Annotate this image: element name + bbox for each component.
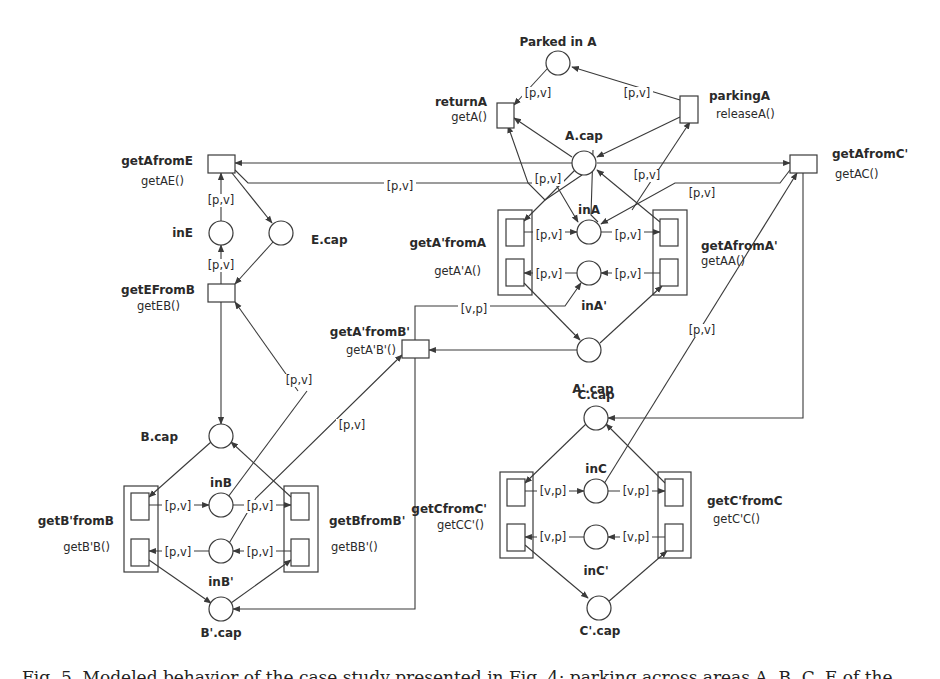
arc-inscription: [p,v] — [535, 172, 562, 186]
arc — [608, 551, 667, 602]
transition-box — [402, 340, 429, 358]
transition-parkingA: parkingAreleaseA() — [680, 89, 775, 123]
place-label: E.cap — [311, 233, 348, 247]
arc-label: [p,v] — [686, 323, 718, 337]
arc-inscription: [p,v] — [634, 168, 661, 182]
arc-inscription: [p,v] — [208, 193, 235, 207]
transition-group-getCpfromC: getC'fromCgetC'C() — [658, 472, 783, 558]
transition-getEFromB: getEFromBgetEB() — [121, 283, 235, 313]
place-Bpcap: B'.cap — [200, 597, 242, 640]
transition-method: getAC() — [835, 167, 879, 181]
transition-group-getBfromBp: getBfromB'getBB'() — [284, 486, 405, 572]
place-label: inB — [210, 476, 232, 490]
arc-inscription: [p,v] — [165, 545, 192, 559]
arc — [231, 560, 291, 603]
place-circle — [584, 525, 608, 549]
transition-box — [131, 539, 149, 566]
place-circle — [587, 596, 611, 620]
arc-label: [p,v] — [621, 86, 653, 100]
transition-box — [660, 219, 678, 246]
arc-label: [p,v] — [631, 168, 663, 182]
transition-group-getApfromA: getA'fromAgetA'A() — [409, 210, 532, 295]
arc — [525, 545, 588, 598]
transition-box — [506, 219, 524, 246]
arc-inscription: [v,p] — [461, 302, 488, 316]
arc-label: [p,v] — [533, 228, 565, 242]
arc-label: [p,v] — [522, 86, 554, 100]
place-circle — [209, 539, 233, 563]
arc — [235, 242, 273, 284]
transition-box — [790, 155, 817, 173]
transition-name: getAfromE — [121, 154, 193, 168]
place-label: inB' — [208, 575, 233, 589]
arc-inscription: [p,v] — [689, 186, 716, 200]
transition-method: getA'B'() — [346, 343, 396, 357]
transition-box — [497, 103, 514, 128]
transition-box — [131, 493, 149, 520]
arc-label: [v,p] — [620, 530, 652, 544]
arc — [525, 424, 586, 483]
transition-box — [507, 524, 525, 551]
transition-box — [506, 259, 524, 286]
place-Ecap: E.cap — [269, 221, 348, 247]
place-circle — [209, 221, 233, 245]
place-circle — [577, 261, 601, 285]
transition-returnA: returnAgetA() — [435, 95, 514, 128]
arc-inscription: [p,v] — [689, 323, 716, 337]
transition-method: getBB'() — [331, 540, 378, 554]
arc-label: [v,p] — [537, 484, 569, 498]
arc-labels-layer: [p,v][p,v][p,v][p,v][p,v][p,v][p,v][p,v]… — [162, 86, 718, 559]
arc-label: [p,v] — [162, 499, 194, 513]
transition-name: getAfromA' — [701, 239, 778, 253]
transition-method: getCC'() — [437, 518, 484, 532]
place-inAp: inA' — [577, 261, 607, 313]
transition-name: getBfromB' — [329, 514, 405, 528]
transition-method: getA() — [451, 110, 487, 124]
place-circle — [584, 479, 608, 503]
transition-getAfromE: getAfromEgetAE() — [121, 154, 235, 188]
place-label: inC' — [583, 564, 608, 578]
arc-inscription: [v,p] — [540, 484, 567, 498]
transition-group-getAfromAp: getAfromA'getAA() — [653, 210, 778, 295]
place-parkedA: Parked in A — [519, 35, 597, 75]
arc-inscription: [v,p] — [623, 484, 650, 498]
transition-group-getBpfromB: getB'fromBgetB'B() — [38, 486, 158, 572]
place-inBp: inB' — [208, 539, 233, 589]
arc-label: [p,v] — [244, 545, 276, 559]
arc — [597, 117, 680, 157]
arc — [228, 391, 307, 497]
place-inA: inA — [577, 203, 601, 244]
arc-label: [v,p] — [537, 530, 569, 544]
arc-inscription: [p,v] — [615, 228, 642, 242]
place-label: Parked in A — [519, 35, 597, 49]
transition-method: getAE() — [141, 174, 184, 188]
transition-name: getA'fromA — [409, 236, 486, 250]
transition-box — [507, 479, 525, 506]
place-circle — [546, 51, 570, 75]
arc-inscription: [p,v] — [525, 86, 552, 100]
place-circle — [269, 221, 293, 245]
arc — [233, 358, 415, 609]
place-label: inA' — [581, 299, 607, 313]
arc-label: [v,p] — [620, 484, 652, 498]
transition-box — [208, 284, 235, 302]
arc-label: [p,v] — [205, 258, 237, 272]
transition-method: getEB() — [137, 299, 180, 313]
arc-inscription: [p,v] — [536, 267, 563, 281]
transition-name: getA'fromB' — [330, 325, 410, 339]
transition-method: getC'C() — [713, 512, 760, 526]
transition-method: getA'A() — [434, 264, 481, 278]
arc — [514, 118, 572, 157]
arc-inscription: [p,v] — [624, 86, 651, 100]
transition-name: getAfromC' — [832, 147, 908, 161]
place-label: A.cap — [565, 129, 603, 143]
transition-getApfromBp: getA'fromB'getA'B'() — [330, 325, 429, 358]
transition-method: getB'B() — [63, 540, 110, 554]
transition-box — [208, 155, 235, 173]
arc-label: [p,v] — [244, 499, 276, 513]
arc — [231, 442, 291, 497]
transition-name: getB'fromB — [38, 514, 114, 528]
arc-inscription: [p,v] — [615, 267, 642, 281]
arc-label: [v,p] — [458, 302, 490, 316]
place-Acap: A.cap — [565, 129, 603, 175]
